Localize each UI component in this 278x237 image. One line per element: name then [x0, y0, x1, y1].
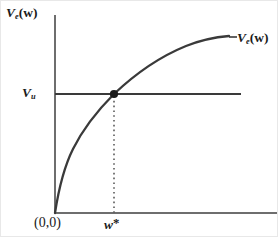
wstar-label-main: w — [104, 217, 113, 232]
y-axis-label-argument: (w) — [19, 5, 38, 20]
curve-label: Ve(w) — [237, 31, 268, 47]
ve-curve — [55, 36, 229, 213]
curve-label-argument: (w) — [250, 30, 269, 45]
vu-label-main: V — [22, 85, 31, 100]
origin-label: (0,0) — [34, 216, 61, 230]
reservation-wage-point — [110, 90, 118, 98]
vu-label-subscript: u — [31, 92, 36, 101]
vu-label: Vu — [22, 86, 36, 102]
wstar-label: w* — [104, 217, 119, 232]
figure-container: Ve(w) Vu Ve(w) (0,0) w* — [0, 0, 278, 237]
y-axis-label-main: V — [6, 5, 15, 20]
curve-label-main: V — [237, 30, 246, 45]
wstar-label-asterisk: * — [113, 216, 119, 230]
y-axis-label: Ve(w) — [6, 6, 37, 22]
